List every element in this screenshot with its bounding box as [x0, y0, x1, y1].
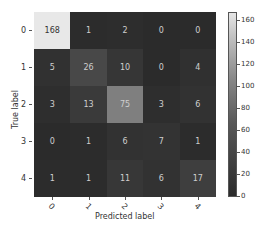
x-tick-mark	[52, 197, 53, 200]
colorbar-tick-label: 120	[241, 60, 254, 68]
matrix-cell: 0	[34, 123, 70, 160]
matrix-cell: 1	[180, 123, 216, 160]
y-tick-label: 3	[16, 137, 26, 146]
matrix-cell: 1	[70, 12, 106, 49]
colorbar-tick-label: 0	[241, 192, 245, 200]
matrix-cell: 1	[34, 160, 70, 197]
confusion-matrix-figure: 168120052610043137536016711111617 01234 …	[0, 0, 262, 229]
x-tick-label: 3	[156, 202, 166, 212]
x-tick-label: 4	[192, 202, 202, 212]
x-tick-label: 0	[47, 202, 57, 212]
colorbar-tick-label: 80	[241, 104, 250, 112]
colorbar-tick-label: 40	[241, 148, 250, 156]
y-tick-label: 1	[16, 63, 26, 72]
matrix-cell: 6	[107, 123, 143, 160]
matrix-cell: 6	[143, 160, 179, 197]
y-tick-label: 4	[16, 174, 26, 183]
x-tick-mark	[161, 197, 162, 200]
colorbar-tick-label: 60	[241, 126, 250, 134]
matrix-cell: 2	[107, 12, 143, 49]
x-tick-label: 2	[120, 202, 130, 212]
colorbar-tick-label: 160	[241, 16, 254, 24]
x-tick-mark	[89, 197, 90, 200]
x-axis-label: Predicted label	[95, 212, 154, 221]
matrix-cell: 3	[143, 86, 179, 123]
matrix-cell: 1	[70, 160, 106, 197]
matrix-cell: 10	[107, 49, 143, 86]
colorbar	[228, 12, 237, 197]
colorbar-tick-label: 140	[241, 38, 254, 46]
matrix-cell: 6	[180, 86, 216, 123]
matrix-cell: 26	[70, 49, 106, 86]
matrix-cell: 11	[107, 160, 143, 197]
colorbar-tick-label: 20	[241, 170, 250, 178]
x-tick-mark	[198, 197, 199, 200]
matrix-cell: 1	[70, 123, 106, 160]
matrix-cell: 17	[180, 160, 216, 197]
matrix-cell: 7	[143, 123, 179, 160]
x-tick-mark	[125, 197, 126, 200]
confusion-matrix-grid: 168120052610043137536016711111617	[34, 12, 216, 197]
matrix-cell: 168	[34, 12, 70, 49]
matrix-cell: 3	[34, 86, 70, 123]
matrix-cell: 4	[180, 49, 216, 86]
matrix-cell: 0	[143, 12, 179, 49]
matrix-cell: 5	[34, 49, 70, 86]
matrix-cell: 75	[107, 86, 143, 123]
matrix-cell: 0	[143, 49, 179, 86]
colorbar-tick-label: 100	[241, 82, 254, 90]
matrix-cell: 13	[70, 86, 106, 123]
y-axis-label: True label	[11, 90, 20, 129]
y-tick-label: 0	[16, 26, 26, 35]
x-tick-label: 1	[83, 202, 93, 212]
matrix-cell: 0	[180, 12, 216, 49]
